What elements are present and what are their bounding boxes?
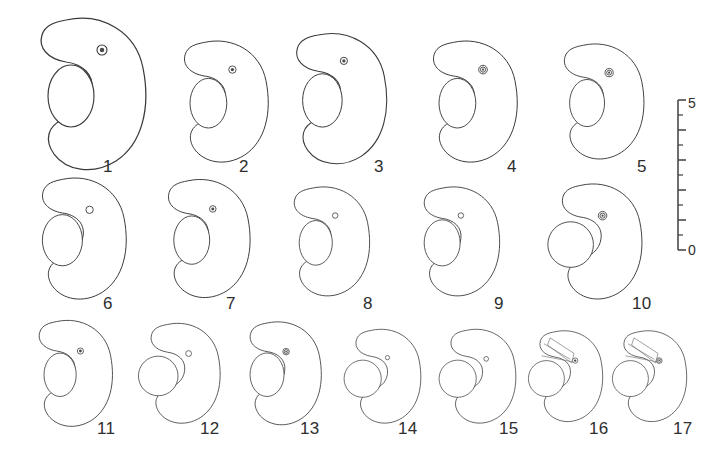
specimen-inner-lobe <box>570 79 605 126</box>
specimen-dot-core <box>342 59 345 62</box>
scale-bar-bottom-label: 0 <box>688 243 696 257</box>
specimen-dot-core <box>608 72 610 74</box>
specimen-dot-outer-ring <box>458 213 463 218</box>
specimen-label-17: 17 <box>673 420 693 437</box>
specimen-dot-outer-ring <box>385 356 389 360</box>
scale-bar-top-label: 5 <box>688 96 696 110</box>
specimen-inner-lobe <box>48 65 94 127</box>
specimen-inner-lobe <box>138 356 178 396</box>
specimen-inner-lobe <box>42 215 82 266</box>
specimen-dot-outer-ring <box>484 357 489 362</box>
scale-bar <box>668 90 694 260</box>
specimen-inner-lobe <box>439 360 476 397</box>
specimen-dot-core <box>658 360 659 361</box>
specimen-dot-core <box>100 48 105 53</box>
specimen-dot-outer-ring <box>186 351 192 357</box>
specimen-dot-core <box>231 68 234 71</box>
specimen-inner-lobe <box>190 78 227 128</box>
specimen-dot-core <box>211 207 214 210</box>
specimen-inner-lobe <box>528 361 564 397</box>
specimen-dot-core <box>79 350 82 353</box>
specimen-plate: 123456789101112131415161750 <box>0 0 712 456</box>
specimen-inner-lobe <box>299 221 332 266</box>
specimen-inner-lobe <box>439 78 476 128</box>
specimen-inner-lobe <box>612 361 648 397</box>
specimen-inner-lobe <box>44 353 76 396</box>
specimen-inner-lobe <box>250 353 284 397</box>
specimen-dot-outer-ring <box>86 206 93 213</box>
specimen-inner-lobe <box>174 216 210 264</box>
specimen-inner-lobe <box>548 222 594 268</box>
specimen-inner-lobe <box>424 220 460 266</box>
specimen-dot-core <box>601 215 603 217</box>
specimen-inner-lobe <box>344 360 381 397</box>
specimen-dot-outer-ring <box>332 213 337 218</box>
specimen-inner-lobe <box>303 74 343 127</box>
specimen-dot-core <box>482 68 484 70</box>
specimen-dot-core <box>285 351 287 353</box>
